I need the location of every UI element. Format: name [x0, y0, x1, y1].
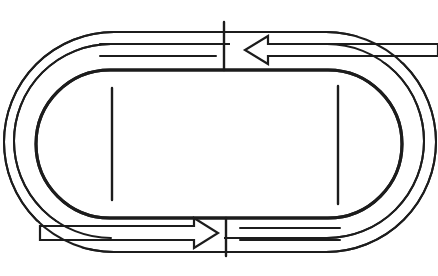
- inner-lane: [36, 70, 402, 218]
- inner-lane-top: [36, 70, 402, 218]
- outer-lane-left-curve: [4, 32, 114, 252]
- middle-lane-right-curve: [327, 44, 424, 238]
- race-track-diagram: [0, 0, 438, 276]
- outer-lane-right-curve: [326, 32, 436, 252]
